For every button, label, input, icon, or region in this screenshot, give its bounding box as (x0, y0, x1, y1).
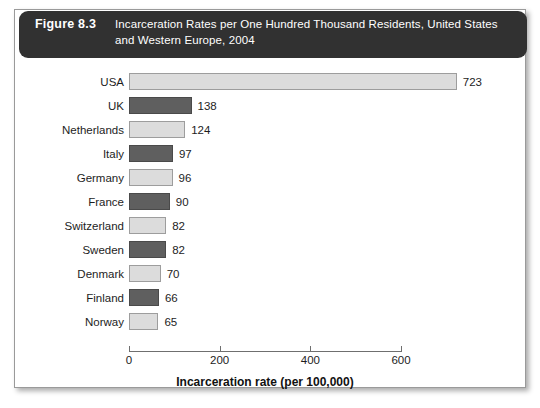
bar-value-label: 70 (161, 268, 180, 280)
bar-row: USA723 (15, 70, 525, 94)
bar-row: France90 (15, 190, 525, 214)
bar-row: Switzerland82 (15, 214, 525, 238)
x-axis-tick (310, 346, 311, 352)
category-label: Netherlands (62, 124, 129, 136)
category-label: Germany (77, 172, 129, 184)
figure-panel: Figure 8.3 Incarceration Rates per One H… (14, 9, 526, 388)
x-axis-tick (220, 346, 221, 352)
bar (129, 265, 161, 282)
x-axis-tick (401, 346, 402, 352)
bar (129, 193, 170, 210)
x-axis-tick-label: 400 (301, 354, 320, 366)
x-axis-title: Incarceration rate (per 100,000) (129, 375, 401, 389)
bar (129, 241, 166, 258)
bar (129, 169, 173, 186)
bar-row: Norway65 (15, 310, 525, 334)
category-label: Sweden (82, 244, 129, 256)
bar-value-label: 90 (170, 196, 189, 208)
category-label: UK (108, 100, 129, 112)
bar-row: UK138 (15, 94, 525, 118)
category-label: Finland (86, 292, 129, 304)
bar-row: Germany96 (15, 166, 525, 190)
bar-value-label: 138 (192, 100, 217, 112)
bar-value-label: 65 (158, 316, 177, 328)
figure-caption-text: Incarceration Rates per One Hundred Thou… (111, 17, 517, 48)
bar-row: Sweden82 (15, 238, 525, 262)
category-label: France (88, 196, 129, 208)
category-label: Denmark (77, 268, 129, 280)
bar (129, 97, 192, 114)
x-axis-line (129, 351, 401, 352)
bar (129, 313, 158, 330)
category-label: USA (100, 76, 129, 88)
category-label: Italy (103, 148, 129, 160)
category-label: Switzerland (65, 220, 129, 232)
figure-caption-header: Figure 8.3 Incarceration Rates per One H… (19, 11, 527, 58)
bar (129, 217, 166, 234)
x-axis-tick-label: 0 (126, 354, 132, 366)
bar-value-label: 124 (185, 124, 210, 136)
x-axis-tick (129, 346, 130, 352)
bar-row: Netherlands124 (15, 118, 525, 142)
bar-value-label: 66 (159, 292, 178, 304)
bar (129, 289, 159, 306)
category-label: Norway (85, 316, 129, 328)
bar-value-label: 723 (457, 76, 482, 88)
bar-chart-plot-area: USA723UK138Netherlands124Italy97Germany9… (15, 65, 525, 388)
x-axis-tick-label: 600 (391, 354, 410, 366)
bar-row: Denmark70 (15, 262, 525, 286)
bar-value-label: 96 (173, 172, 192, 184)
bar-value-label: 82 (166, 244, 185, 256)
bar-row: Italy97 (15, 142, 525, 166)
bar (129, 121, 185, 138)
bar-value-label: 82 (166, 220, 185, 232)
bar (129, 73, 457, 90)
figure-number: Figure 8.3 (35, 17, 111, 31)
x-axis-tick-label: 200 (210, 354, 229, 366)
bar (129, 145, 173, 162)
bar-value-label: 97 (173, 148, 192, 160)
bar-row: Finland66 (15, 286, 525, 310)
